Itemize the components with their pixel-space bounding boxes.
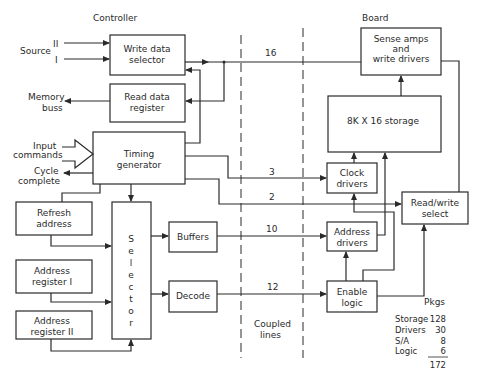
address-register-1-block: Address register I xyxy=(16,260,92,293)
addr2-to-selector xyxy=(51,339,131,351)
memory-system-block-diagram: Controller Board Coupled lines Write dat… xyxy=(0,0,479,375)
svg-text:128: 128 xyxy=(430,314,446,324)
svg-text:register II: register II xyxy=(31,327,74,337)
source-label: Source xyxy=(20,46,51,56)
svg-text:drivers: drivers xyxy=(336,238,367,248)
bus-width-16: 16 xyxy=(265,48,277,58)
write-data-selector-block: Write data selector xyxy=(110,35,185,75)
memory-buss-label-1: Memory xyxy=(28,92,65,102)
svg-text:8K X 16 storage: 8K X 16 storage xyxy=(347,116,419,126)
svg-text:8: 8 xyxy=(441,336,446,346)
bus-width-10: 10 xyxy=(266,224,278,234)
enable-logic-block: Enable logic xyxy=(327,281,377,312)
refresh-to-selector xyxy=(51,235,111,246)
svg-text:register I: register I xyxy=(32,277,72,287)
address-register-2-block: Address register II xyxy=(16,311,92,339)
svg-text:Refresh: Refresh xyxy=(37,208,71,218)
input-commands-wide-arrow xyxy=(62,140,93,168)
svg-text:Enable: Enable xyxy=(337,287,368,297)
svg-text:Read data: Read data xyxy=(124,92,170,102)
sense-amps-block: Sense amps and write drivers xyxy=(361,28,441,75)
svg-text:Address: Address xyxy=(34,316,70,326)
bus-width-3: 3 xyxy=(269,167,275,177)
decode-block: Decode xyxy=(169,281,217,312)
svg-text:t: t xyxy=(129,294,133,304)
read-write-select-block: Read/write select xyxy=(402,192,468,224)
read-data-register-block: Read data register xyxy=(110,84,185,122)
svg-text:write drivers: write drivers xyxy=(373,54,430,64)
bus-width-12: 12 xyxy=(267,282,278,292)
buffers-block: Buffers xyxy=(169,222,217,252)
svg-text:Logic: Logic xyxy=(395,346,418,356)
svg-text:Drivers: Drivers xyxy=(395,325,426,335)
svg-text:Buffers: Buffers xyxy=(177,232,209,242)
svg-text:logic: logic xyxy=(341,298,362,308)
enable-to-rw-select xyxy=(377,225,424,296)
sense-to-rw-line xyxy=(441,61,459,192)
svg-text:selector: selector xyxy=(129,55,165,65)
svg-text:drivers: drivers xyxy=(336,179,367,189)
svg-text:c: c xyxy=(129,282,134,292)
coupled-label-1: Coupled xyxy=(254,319,291,329)
address-to-storage xyxy=(377,153,385,235)
svg-text:30: 30 xyxy=(435,325,446,335)
svg-text:Sense amps: Sense amps xyxy=(374,34,429,44)
cycle-complete-label-1: Cycle xyxy=(34,166,59,176)
source-i-label: I xyxy=(55,55,58,65)
timing-to-write-selector xyxy=(185,70,200,143)
svg-text:Clock: Clock xyxy=(340,168,365,178)
packages-table: Pkgs Storage 128 Drivers 30 S/A 8 Logic … xyxy=(395,297,448,370)
source-ii-label: II xyxy=(53,39,58,49)
svg-text:generator: generator xyxy=(117,160,162,170)
bus-width-2: 2 xyxy=(269,192,275,202)
memory-buss-label-2: buss xyxy=(42,103,63,113)
timing-to-refresh xyxy=(62,184,100,202)
svg-text:Decode: Decode xyxy=(176,291,211,301)
svg-text:r: r xyxy=(129,318,133,328)
svg-text:Timing: Timing xyxy=(123,149,154,159)
selector-block: S e l e c t o r xyxy=(112,202,151,339)
controller-label: Controller xyxy=(93,13,138,23)
clock-bus-3 xyxy=(185,156,326,178)
svg-text:Storage: Storage xyxy=(395,314,428,324)
svg-text:172: 172 xyxy=(430,360,446,370)
coupled-label-2: lines xyxy=(260,330,281,340)
pkgs-title: Pkgs xyxy=(424,297,445,307)
svg-text:S/A: S/A xyxy=(395,336,409,346)
svg-text:Address: Address xyxy=(334,227,370,237)
svg-text:o: o xyxy=(128,306,134,316)
svg-text:S: S xyxy=(128,234,134,244)
cycle-complete-label-2: complete xyxy=(18,176,61,186)
svg-text:Address: Address xyxy=(34,266,70,276)
refresh-address-block: Refresh address xyxy=(16,202,92,235)
address-drivers-block: Address drivers xyxy=(327,222,377,251)
addr1-to-selector xyxy=(51,293,111,302)
input-commands-label-2: commands xyxy=(13,150,63,160)
storage-block: 8K X 16 storage xyxy=(328,96,441,152)
svg-text:select: select xyxy=(422,209,449,219)
data-to-read-register xyxy=(186,62,224,101)
board-label: Board xyxy=(362,13,388,23)
svg-text:e: e xyxy=(128,246,134,256)
svg-text:l: l xyxy=(130,258,133,268)
svg-text:address: address xyxy=(36,219,72,229)
svg-text:and: and xyxy=(393,44,410,54)
svg-text:Read/write: Read/write xyxy=(411,198,460,208)
svg-text:Write data: Write data xyxy=(124,44,171,54)
clock-drivers-block: Clock drivers xyxy=(327,163,377,193)
svg-text:register: register xyxy=(130,103,165,113)
svg-text:e: e xyxy=(128,270,134,280)
timing-generator-block: Timing generator xyxy=(93,132,185,184)
svg-text:6: 6 xyxy=(441,346,446,356)
